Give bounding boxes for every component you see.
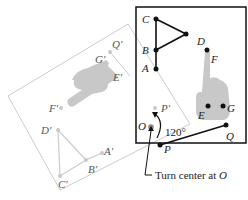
original-triangle [156,19,186,69]
point-c [154,17,159,22]
label-b: B [142,44,149,56]
label-p: P [163,143,171,155]
image-point-f [59,106,63,110]
label-e: E [197,109,205,121]
caption-prefix: Turn center at [155,169,219,181]
point-g [221,104,226,109]
label-q-prime: Q′ [112,38,123,50]
rotation-arc-icon [155,114,161,138]
caption-center-label: O [219,169,227,181]
label-p-prime: P′ [160,102,171,114]
label-d-prime: D′ [40,124,52,136]
label-f: F [210,53,218,65]
rotation-angle-label: 120° [165,126,186,138]
point-b [154,48,159,53]
caption-pointer [145,131,152,175]
label-a-prime: A′ [103,145,114,157]
label-g: G [227,102,235,114]
label-q: Q [226,130,234,142]
label-o: O [138,120,146,132]
point-q [224,123,229,128]
image-point-p [153,106,157,110]
label-c-prime: C′ [58,178,68,190]
rotation-arrowhead-icon [152,112,158,118]
label-d: D [196,35,205,47]
label-c: C [142,13,150,25]
original-frame [136,7,246,143]
turn-center-caption: Turn center at O [155,169,227,181]
point-p [158,143,163,148]
image-point-d [56,128,60,132]
label-a: A [141,62,149,74]
rotation-diagram: C B A D F E G P Q O Q′ G′ E′ F′ D′ B′ A′… [0,0,248,200]
image-point-q [108,50,112,54]
image-hand-icon [67,60,117,107]
image-point-b [84,158,88,162]
label-g-prime: G′ [95,53,106,65]
point-a [154,67,159,72]
point-d [184,32,189,37]
point-e [206,104,211,109]
label-e-prime: E′ [112,71,123,83]
label-f-prime: F′ [48,102,59,114]
point-f [205,48,210,53]
label-b-prime: B′ [88,163,98,175]
